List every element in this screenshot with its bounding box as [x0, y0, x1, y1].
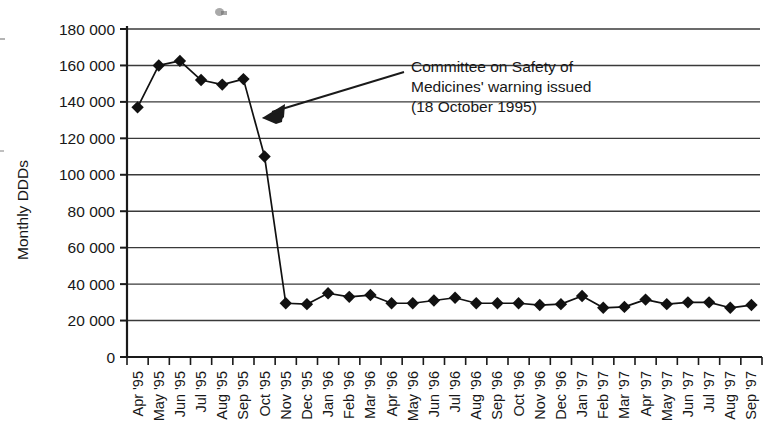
y-axis-tick-label: 20 000: [68, 312, 116, 329]
x-axis-tick-label: Mar '97: [616, 371, 632, 419]
x-axis-tick-label: Dec '96: [553, 371, 569, 420]
annotation-line: Medicines' warning issued: [411, 78, 591, 95]
data-point-marker: [724, 302, 736, 314]
x-axis-tick-label: Aug '97: [722, 371, 738, 420]
x-axis-tick-label: Jun '97: [680, 371, 696, 417]
data-point-marker: [322, 287, 334, 299]
x-axis-tick-label: Sep '95: [235, 371, 251, 420]
data-point-marker: [745, 299, 757, 311]
data-point-marker: [343, 291, 355, 303]
x-axis-tick-label: Aug '96: [468, 371, 484, 420]
y-axis-tick-label: 60 000: [68, 239, 116, 256]
y-axis-title: Monthly DDDs: [14, 160, 31, 260]
x-axis-tick-label: Jul '97: [701, 371, 717, 412]
x-axis-tick-label: May '95: [151, 371, 167, 421]
data-point-marker: [449, 292, 461, 304]
y-axis-tick-label: 180 000: [59, 21, 115, 38]
x-axis-tick-label: Apr '95: [130, 371, 146, 417]
x-axis-tick-label: Oct '96: [511, 371, 527, 416]
x-axis-tick-label: Jun '96: [426, 371, 442, 417]
data-point-marker: [301, 298, 313, 310]
data-point-marker: [385, 297, 397, 309]
x-axis-tick-label: May '96: [405, 371, 421, 421]
x-axis-tick-label: Nov '95: [278, 371, 294, 420]
x-axis-tick-label: Jul '95: [193, 371, 209, 412]
y-axis-tick-label: 100 000: [59, 166, 115, 183]
data-point-marker: [703, 296, 715, 308]
data-point-marker: [491, 297, 503, 309]
data-point-marker: [216, 78, 228, 90]
chart-figure: 020 00040 00060 00080 000100 000120 0001…: [0, 0, 774, 441]
data-point-marker: [428, 294, 440, 306]
y-axis-tick-label: 40 000: [68, 276, 116, 293]
annotation-arrow: [262, 72, 404, 124]
data-point-marker: [280, 297, 292, 309]
y-axis-tick-label: 120 000: [59, 130, 115, 147]
x-axis-tick-label: Jul '96: [447, 371, 463, 412]
y-axis-tick-label: 0: [106, 349, 115, 366]
y-axis-tick-label: 160 000: [59, 57, 115, 74]
x-axis-tick-label: Apr '96: [384, 371, 400, 417]
data-point-marker: [407, 297, 419, 309]
data-point-marker: [639, 293, 651, 305]
x-axis-tick-label: Apr '97: [638, 371, 654, 417]
chart-canvas: 020 00040 00060 00080 000100 000120 0001…: [0, 0, 774, 441]
annotation-line: (18 October 1995): [411, 98, 537, 115]
x-axis-tick-label: May '97: [659, 371, 675, 421]
data-point-marker: [597, 302, 609, 314]
x-axis-tick-label: Feb '97: [595, 371, 611, 419]
x-axis-tick-label: Mar '96: [362, 371, 378, 419]
x-axis-ticks: [127, 357, 762, 365]
data-point-marker: [364, 289, 376, 301]
data-point-marker: [131, 101, 143, 113]
data-point-marker: [534, 299, 546, 311]
x-axis-tick-label: Jan '97: [574, 371, 590, 417]
data-point-marker: [470, 297, 482, 309]
x-axis-tick-label: Sep '97: [743, 371, 759, 420]
x-axis-tick-label: Jun '95: [172, 371, 188, 417]
data-point-marker: [512, 297, 524, 309]
x-axis-tick-label: Feb '96: [341, 371, 357, 419]
y-axis-tick-labels: 020 00040 00060 00080 000100 000120 0001…: [59, 21, 115, 366]
data-point-marker: [555, 298, 567, 310]
data-point-marker: [682, 296, 694, 308]
y-axis-tick-label: 140 000: [59, 93, 115, 110]
x-axis-tick-labels: Apr '95May '95Jun '95Jul '95Aug '95Sep '…: [130, 371, 760, 421]
x-axis-tick-label: Nov '96: [532, 371, 548, 420]
data-point-marker: [618, 301, 630, 313]
annotation-line: Committee on Safety of: [411, 58, 574, 75]
x-axis-tick-label: Oct '95: [257, 371, 273, 416]
x-axis-tick-label: Jan '96: [320, 371, 336, 417]
data-point-marker: [661, 298, 673, 310]
data-point-marker: [153, 59, 165, 71]
x-axis-tick-label: Aug '95: [214, 371, 230, 420]
y-axis-tick-label: 80 000: [68, 203, 116, 220]
data-point-marker: [576, 290, 588, 302]
data-point-marker: [237, 73, 249, 85]
data-point-marker: [258, 150, 270, 162]
annotation-text: Committee on Safety ofMedicines' warning…: [411, 58, 591, 115]
x-axis-tick-label: Sep '96: [489, 371, 505, 420]
x-axis-tick-label: Dec '95: [299, 371, 315, 420]
